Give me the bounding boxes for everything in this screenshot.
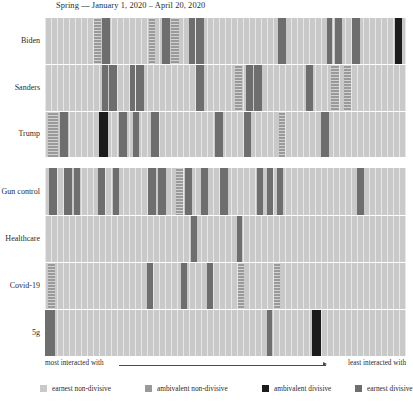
heatmap-segment (136, 65, 144, 110)
row-label-biden: Biden (0, 36, 40, 45)
legend-item-amb-div[interactable]: ambivalent divisive (262, 384, 331, 393)
legend-swatch-amb-div (262, 385, 269, 392)
heatmap-segment (176, 168, 183, 215)
heatmap-segment (306, 65, 313, 110)
heatmap-segment (215, 112, 223, 157)
panel-topics (45, 168, 406, 356)
heatmap-segment (246, 65, 253, 110)
legend-item-amb-nondiv[interactable]: ambivalent non-divisive (145, 384, 228, 393)
column-gridlines (45, 65, 406, 110)
heatmap-segment (335, 18, 342, 64)
heatmap-segment (278, 18, 286, 64)
panel-candidates (45, 18, 406, 157)
heatmap-segment (149, 18, 155, 64)
legend-swatch-earnest-nondiv (40, 385, 47, 392)
row-label-healthcare: Healthcare (0, 234, 40, 243)
heatmap-segment (64, 168, 72, 215)
heatmap-row-healthcare (45, 215, 406, 262)
heatmap-segment (119, 112, 127, 157)
heatmap-segment (148, 168, 156, 215)
heatmap-segment (274, 263, 280, 309)
heatmap-segment (171, 18, 179, 64)
heatmap-segment (49, 168, 57, 215)
heatmap-segment (344, 65, 351, 110)
legend: earnest non-divisiveambivalent non-divis… (40, 381, 406, 395)
heatmap-segment (60, 112, 68, 157)
heatmap-segment (196, 65, 204, 110)
heatmap-segment (237, 216, 242, 262)
axis-line (119, 365, 326, 366)
heatmap-segment (130, 65, 135, 110)
heatmap-segment (196, 18, 204, 64)
legend-item-earnest-div[interactable]: earnest divisive (355, 384, 413, 393)
row-label-5g: 5g (0, 328, 40, 337)
heatmap-segment (109, 65, 117, 110)
column-gridlines (45, 263, 406, 309)
heatmap-segment (257, 168, 263, 215)
heatmap-row-sanders (45, 64, 406, 110)
heatmap-segment (267, 310, 272, 356)
row-label-trump: Trump (0, 129, 40, 138)
heatmap-segment (395, 18, 402, 64)
legend-item-earnest-nondiv[interactable]: earnest non-divisive (40, 384, 111, 393)
heatmap-segment (99, 112, 108, 157)
heatmap-segment (201, 168, 208, 215)
heatmap-segment (74, 168, 80, 215)
heatmap-row-biden (45, 18, 406, 64)
heatmap-segment (327, 18, 332, 64)
axis-right-label: least interacted with (348, 359, 406, 367)
heatmap-segment (189, 18, 195, 64)
heatmap-segment (147, 263, 153, 309)
heatmap-segment (277, 168, 283, 215)
interaction-axis: most interacted with least interacted wi… (45, 359, 406, 371)
heatmap-segment (158, 168, 166, 215)
heatmap-segment (151, 112, 159, 157)
heatmap-segment (94, 18, 101, 64)
heatmap-row-covid-19 (45, 262, 406, 309)
heatmap-segment (244, 112, 251, 157)
heatmap-segment (133, 112, 139, 157)
legend-swatch-earnest-div (355, 385, 362, 392)
column-gridlines (45, 310, 406, 356)
heatmap-segment (102, 18, 110, 64)
heatmap-segment (45, 310, 55, 356)
heatmap-segment (102, 65, 108, 110)
heatmap-segment (267, 168, 273, 215)
heatmap-segment (207, 263, 213, 309)
heatmap-segment (181, 263, 187, 309)
legend-label-amb-nondiv: ambivalent non-divisive (157, 384, 228, 393)
heatmap-segment (254, 65, 262, 110)
heatmap-segment (162, 18, 170, 64)
right-arrow-icon (323, 362, 327, 366)
legend-label-amb-div: ambivalent divisive (274, 384, 331, 393)
heatmap-row-gun-control (45, 168, 406, 215)
heatmap-segment (191, 216, 197, 262)
legend-label-earnest-div: earnest divisive (367, 384, 413, 393)
heatmap-segment (235, 65, 242, 110)
heatmap-row-5g (45, 309, 406, 356)
row-label-covid-19: Covid-19 (0, 281, 40, 290)
row-label-group: BidenSandersTrumpGun controlHealthcareCo… (0, 0, 41, 407)
heatmap-segment (238, 263, 244, 309)
heatmap-segment (220, 168, 228, 215)
heatmap-segment (185, 168, 192, 215)
heatmap-segment (98, 168, 105, 215)
heatmap-segment (357, 168, 364, 215)
legend-label-earnest-nondiv: earnest non-divisive (52, 384, 111, 393)
heatmap-segment (279, 112, 285, 157)
column-gridlines (45, 216, 406, 262)
heatmap-segment (331, 65, 339, 110)
heatmap-row-trump (45, 111, 406, 157)
heatmap-segment (312, 310, 321, 356)
heatmap-segment (48, 112, 58, 157)
heatmap-segment (321, 112, 329, 157)
row-label-sanders: Sanders (0, 83, 40, 92)
axis-left-label: most interacted with (45, 359, 104, 367)
heatmap-segment (113, 168, 119, 215)
chart-title: Spring — January 1, 2020 – April 20, 202… (56, 1, 205, 10)
legend-swatch-amb-nondiv (145, 385, 152, 392)
row-label-gun-control: Gun control (0, 187, 40, 196)
heatmap-segment (352, 18, 360, 64)
heatmap-segment (48, 263, 55, 309)
